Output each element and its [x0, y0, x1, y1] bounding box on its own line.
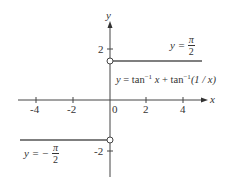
x-axis-arrow-icon [201, 98, 208, 103]
upper-asymptote-label: y = π 2 [170, 35, 195, 57]
x-tick-label: 0 [112, 104, 118, 115]
x-tick-label: -2 [67, 104, 76, 115]
y-axis-label: y [106, 10, 111, 21]
lower-asymptote-label: y = − π 2 [24, 143, 59, 165]
neg-pi-over-2-fraction: π 2 [52, 143, 59, 165]
function-label: y = tan−1 x + tan−1(1 / x) [116, 74, 216, 86]
lower-open-point [107, 137, 113, 143]
x-tick-label: 2 [143, 104, 149, 115]
y-tick-label: -2 [94, 146, 103, 157]
upper-open-point [107, 58, 113, 64]
x-tick-label: -4 [30, 104, 39, 115]
pi-over-2-fraction: π 2 [188, 35, 195, 57]
x-tick-label: 4 [180, 104, 186, 115]
x-axis-label: x [210, 94, 215, 105]
y-axis-arrow-icon [108, 21, 113, 28]
y-tick-label: 2 [98, 44, 104, 55]
